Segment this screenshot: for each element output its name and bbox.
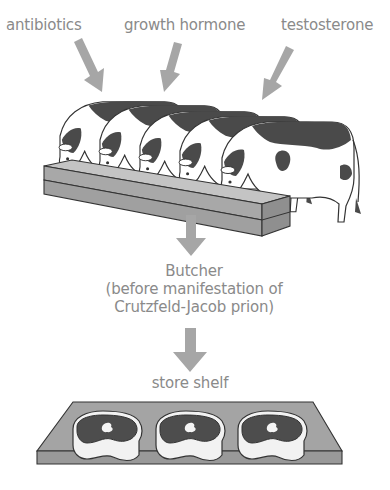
arrow-growth-hormone <box>160 42 182 92</box>
butcher-note-line2: Crutzfeld-Jacob prion) <box>114 298 274 316</box>
arrow-antibiotics <box>74 38 104 92</box>
arrow-testosterone <box>262 46 294 100</box>
arrow-to-store <box>173 328 207 372</box>
store-shelf-label: store shelf <box>152 374 229 392</box>
steak-group <box>73 411 307 461</box>
butcher-title: Butcher <box>165 262 222 280</box>
diagram-canvas <box>0 0 390 490</box>
butcher-note-line1: (before manifestation of <box>106 280 283 298</box>
